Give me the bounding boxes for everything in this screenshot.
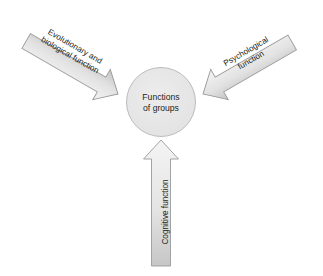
diagram-svg: Evolutionary and biological function Psy… [0,0,323,276]
center-label-line2: of groups [143,103,179,113]
arrow-evolutionary-biological [17,26,126,109]
arrow-cognitive-line1: Cognitive function [161,179,170,245]
center-label-line1: Functions [142,92,179,102]
center-circle [127,68,196,137]
arrow-cognitive-label: Cognitive function [161,179,170,245]
arrow-psychological-shape [194,27,301,109]
diagram-canvas: Evolutionary and biological function Psy… [0,0,323,276]
arrow-psychological [194,27,301,109]
arrow-evolutionary-biological-shape [17,26,126,109]
